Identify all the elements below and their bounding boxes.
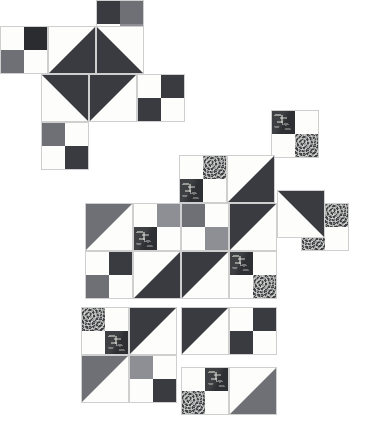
unit-r5-c7-fourpatch bbox=[181, 203, 229, 251]
unit-r7-c3-fourpatch-patch-1 bbox=[81, 307, 105, 331]
unit-r5-c3-hst bbox=[85, 203, 133, 251]
unit-r8-c5-fourpatch-patch-3 bbox=[129, 379, 153, 403]
unit-r6-c3-fourpatch-patch-3 bbox=[85, 275, 109, 299]
unit-r8-c8-fourpatch-patch-2 bbox=[205, 367, 229, 391]
unit-r1-c0-fourpatch-patch-4 bbox=[24, 50, 48, 74]
unit-r4-c7-fourpatch-patch-1 bbox=[179, 155, 203, 179]
unit-r5-c7-fourpatch-patch-1 bbox=[181, 203, 205, 227]
unit-r2-c6-fourpatch-patch-1 bbox=[137, 74, 161, 98]
unit-r8-c5-fourpatch-patch-1 bbox=[129, 355, 153, 379]
unit-r3-c2-fourpatch-patch-4 bbox=[65, 146, 89, 170]
unit-r7-c3-fourpatch-patch-3 bbox=[81, 331, 105, 355]
unit-r2-c2-hst bbox=[41, 74, 89, 122]
unit-r3-c11-fourpatch-patch-1 bbox=[271, 110, 295, 134]
unit-r4-c7-fourpatch-patch-3 bbox=[179, 179, 203, 203]
unit-r5-c5-fourpatch-patch-4 bbox=[157, 227, 181, 251]
unit-r6-c7-hst bbox=[181, 251, 229, 299]
unit-r3-c2-fourpatch-patch-3 bbox=[41, 146, 65, 170]
unit-r8-c5-fourpatch-patch-4 bbox=[153, 379, 177, 403]
unit-r0-c4-fourpatch-patch-2 bbox=[120, 0, 144, 24]
unit-r6-c9-fourpatch-patch-1 bbox=[229, 251, 253, 275]
unit-r2-c6-fourpatch-patch-4 bbox=[161, 98, 185, 122]
unit-r8-c10-hst bbox=[229, 367, 277, 415]
unit-r1-c0-fourpatch bbox=[0, 26, 48, 74]
unit-r4-c7-fourpatch-patch-2 bbox=[203, 155, 227, 179]
unit-r5-c5-fourpatch bbox=[133, 203, 181, 251]
unit-r2-c6-fourpatch-patch-3 bbox=[137, 98, 161, 122]
unit-r1-c0-fourpatch-patch-1 bbox=[0, 26, 24, 50]
unit-r8-c8-fourpatch-patch-3 bbox=[181, 391, 205, 415]
unit-r5-c11-fourpatch-patch-2 bbox=[325, 203, 349, 227]
unit-r8-c5-fourpatch bbox=[129, 355, 177, 403]
unit-r6-c9-fourpatch-patch-4 bbox=[253, 275, 277, 299]
unit-r8-c8-fourpatch bbox=[181, 367, 229, 415]
unit-r6-c3-fourpatch-patch-2 bbox=[109, 251, 133, 275]
unit-r1-c4-hst bbox=[96, 26, 144, 74]
unit-r6-c3-fourpatch-patch-1 bbox=[85, 251, 109, 275]
unit-r7-c10-fourpatch-patch-1 bbox=[229, 307, 253, 331]
unit-r6-c3-fourpatch-patch-4 bbox=[109, 275, 133, 299]
unit-r7-c3-fourpatch bbox=[81, 307, 129, 355]
unit-r4-c7-fourpatch bbox=[179, 155, 227, 203]
unit-r2-c6-fourpatch bbox=[137, 74, 185, 122]
unit-r7-c10-fourpatch-patch-2 bbox=[253, 307, 277, 331]
unit-r1-c0-fourpatch-patch-3 bbox=[0, 50, 24, 74]
unit-r5-c13-hst bbox=[277, 190, 325, 238]
unit-r2-c6-fourpatch-patch-2 bbox=[161, 74, 185, 98]
unit-r7-c10-fourpatch-patch-3 bbox=[229, 331, 253, 355]
unit-r8-c8-fourpatch-patch-1 bbox=[181, 367, 205, 391]
unit-r6-c9-fourpatch bbox=[229, 251, 277, 299]
unit-r3-c11-fourpatch bbox=[271, 110, 319, 158]
unit-r1-c2-hst bbox=[48, 26, 96, 74]
unit-r0-c4-fourpatch-patch-1 bbox=[96, 0, 120, 24]
unit-r7-c5-hst bbox=[129, 307, 177, 355]
unit-r7-c8-hst bbox=[181, 307, 229, 355]
unit-r8-c5-fourpatch-patch-2 bbox=[153, 355, 177, 379]
unit-r3-c2-fourpatch-patch-1 bbox=[41, 122, 65, 146]
unit-r7-c3-fourpatch-patch-4 bbox=[105, 331, 129, 355]
unit-r5-c11-fourpatch-patch-4 bbox=[325, 227, 349, 251]
unit-r5-c5-fourpatch-patch-3 bbox=[133, 227, 157, 251]
unit-r5-c7-fourpatch-patch-3 bbox=[181, 227, 205, 251]
unit-r7-c10-fourpatch bbox=[229, 307, 277, 355]
unit-r2-c4-hst bbox=[89, 74, 137, 122]
unit-r6-c9-fourpatch-patch-2 bbox=[253, 251, 277, 275]
unit-r6-c5-hst bbox=[133, 251, 181, 299]
quilt-canvas bbox=[0, 0, 392, 432]
unit-r5-c7-fourpatch-patch-4 bbox=[205, 227, 229, 251]
unit-r4-c9-hst bbox=[227, 155, 275, 203]
unit-r4-c7-fourpatch-patch-4 bbox=[203, 179, 227, 203]
unit-r8-c8-fourpatch-patch-4 bbox=[205, 391, 229, 415]
unit-r3-c11-fourpatch-patch-4 bbox=[295, 134, 319, 158]
unit-r6-c3-fourpatch bbox=[85, 251, 133, 299]
unit-r1-c0-fourpatch-patch-2 bbox=[24, 26, 48, 50]
unit-r5-c5-fourpatch-patch-1 bbox=[133, 203, 157, 227]
unit-r3-c2-fourpatch-patch-2 bbox=[65, 122, 89, 146]
unit-r3-c11-fourpatch-patch-2 bbox=[295, 110, 319, 134]
unit-r7-c3-fourpatch-patch-2 bbox=[105, 307, 129, 331]
unit-r5-c7-fourpatch-patch-2 bbox=[205, 203, 229, 227]
unit-r8-c3-hst bbox=[81, 355, 129, 403]
unit-r5-c5-fourpatch-patch-2 bbox=[157, 203, 181, 227]
unit-r6-c9-fourpatch-patch-3 bbox=[229, 275, 253, 299]
unit-r3-c2-fourpatch bbox=[41, 122, 89, 170]
unit-r5-c9-hst bbox=[229, 203, 277, 251]
unit-r7-c10-fourpatch-patch-4 bbox=[253, 331, 277, 355]
